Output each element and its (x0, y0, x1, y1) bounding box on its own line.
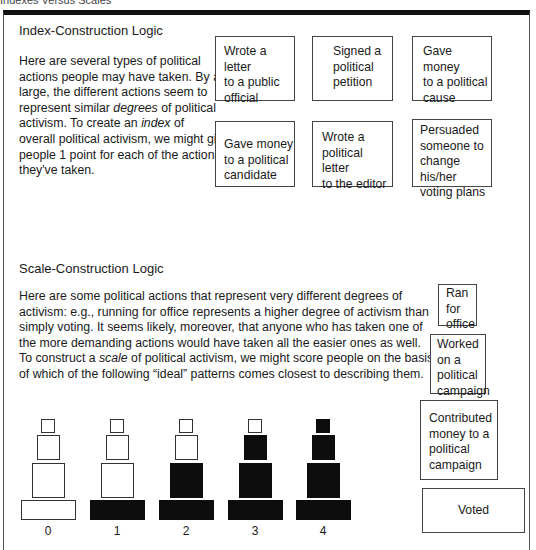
index-action-box: Gave money to a political cause (412, 36, 492, 101)
pyramid-level-box: Ran for office (438, 284, 477, 326)
scale-section-paragraph: Here are some political actions that rep… (19, 289, 433, 383)
filled-block (90, 500, 145, 520)
index-action-label: Wrote a letter to a public official (224, 44, 294, 106)
pattern-score-label: 1 (97, 524, 137, 538)
paragraph-line: people 1 point for each of the actions (19, 148, 234, 164)
pyramid-level-box: Contributed money to a political campaig… (420, 400, 498, 480)
index-action-label: Gave money to a political candidate (224, 137, 293, 184)
paragraph-line: represent similar degrees of political (19, 101, 234, 117)
empty-block (248, 419, 262, 433)
index-action-box: Wrote a letter to a public official (215, 36, 295, 101)
filled-block (244, 435, 267, 460)
index-action-box: Wrote a political letter to the editor (312, 121, 393, 187)
index-action-label: Signed a political petition (333, 44, 381, 91)
index-action-box: Gave money to a political candidate (215, 121, 295, 187)
index-action-label: Gave money to a political cause (423, 44, 491, 106)
index-section-title: Index-Construction Logic (19, 23, 163, 38)
paragraph-line: Here are some political actions that rep… (19, 289, 433, 305)
empty-block (21, 500, 76, 520)
paragraph-line: of which of the following “ideal” patter… (19, 367, 433, 383)
paragraph-line: activism: e.g., running for office repre… (19, 305, 433, 321)
filled-block (296, 500, 351, 520)
scale-section-title: Scale-Construction Logic (19, 261, 164, 276)
figure-caption: Indexes Versus Scales (0, 0, 111, 6)
pattern-score-label: 4 (303, 524, 343, 538)
index-action-box: Persuaded someone to change his/her voti… (412, 119, 492, 187)
pattern-score-label: 0 (28, 524, 68, 538)
empty-block (101, 463, 134, 498)
empty-block (37, 435, 60, 460)
index-action-label: Persuaded someone to change his/her voti… (420, 123, 491, 201)
paragraph-line: large, the different actions seem to (19, 85, 234, 101)
empty-block (179, 419, 193, 433)
pattern-score-label: 3 (235, 524, 275, 538)
filled-block (228, 500, 283, 520)
paragraph-line: actions people may have taken. By and (19, 70, 234, 86)
paragraph-line: overall political activism, we might giv… (19, 132, 234, 148)
paragraph-line: activism. To create an index of (19, 116, 234, 132)
filled-block (316, 419, 330, 433)
pyramid-level-label: Worked on a political campaign (437, 337, 490, 399)
pyramid-level-box: Voted (422, 488, 525, 533)
pyramid-level-label: Voted (423, 503, 524, 519)
empty-block (41, 419, 55, 433)
filled-block (170, 463, 203, 498)
empty-block (175, 435, 198, 460)
pattern-score-label: 2 (166, 524, 206, 538)
pyramid-level-label: Ran for office (446, 286, 475, 333)
index-action-label: Wrote a political letter to the editor (322, 130, 392, 192)
filled-block (159, 500, 214, 520)
paragraph-line: To construct a scale of political activi… (19, 351, 433, 367)
filled-block (307, 463, 340, 498)
index-section-paragraph: Here are several types of politicalactio… (19, 54, 234, 179)
filled-block (312, 435, 335, 460)
paragraph-line: Here are several types of political (19, 54, 234, 70)
paragraph-line: they've taken. (19, 163, 234, 179)
empty-block (110, 419, 124, 433)
empty-block (106, 435, 129, 460)
pyramid-level-label: Contributed money to a political campaig… (429, 411, 492, 473)
empty-block (32, 463, 65, 498)
index-action-box: Signed a political petition (312, 36, 393, 101)
filled-block (239, 463, 272, 498)
pyramid-level-box: Worked on a political campaign (430, 334, 486, 394)
paragraph-line: simply voting. It seems likely, moreover… (19, 320, 433, 336)
paragraph-line: the more demanding actions would have ta… (19, 336, 433, 352)
